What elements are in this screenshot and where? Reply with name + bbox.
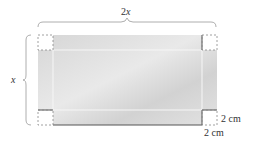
box-net-diagram: [0, 0, 254, 144]
height-label: x: [11, 74, 15, 85]
corner-height-label: 2 cm: [221, 113, 241, 124]
cardboard-sheet: [38, 35, 217, 125]
top-brace: [38, 18, 216, 27]
left-brace: [23, 35, 31, 125]
corner-width-label: 2 cm: [204, 127, 224, 138]
width-label: 2x: [121, 6, 130, 17]
